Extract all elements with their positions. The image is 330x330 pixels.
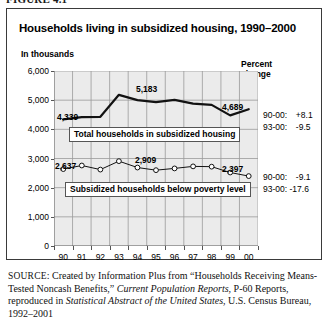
y-axis-tick-mark	[51, 129, 54, 130]
source-italic-2: Statistical Abstract of the United State…	[66, 295, 223, 306]
figure-label: FIGURE 4.1	[6, 0, 67, 5]
y-axis-unit-label: In thousands	[21, 49, 74, 59]
chart-title: Households living in subsidized housing,…	[19, 22, 296, 34]
x-axis-tick-mark	[54, 246, 55, 250]
y-axis-tick-mark	[51, 188, 54, 189]
callout-total-end: 4,689	[222, 102, 243, 112]
x-axis-tick-mark	[258, 246, 259, 250]
callout-total-start: 4,339	[57, 112, 78, 122]
y-axis-tick-label: 3,000	[7, 155, 49, 163]
series-label-total: Total households in subsidized housing	[69, 127, 240, 142]
x-axis-tick-mark	[165, 246, 166, 250]
y-axis-tick-label: 1,000	[7, 213, 49, 221]
x-axis-tick-mark	[202, 246, 203, 250]
callout-poverty-start: 2,637	[55, 161, 76, 171]
source-italic-1: Current Population Reports	[117, 283, 229, 294]
callout-total-peak: 5,183	[136, 84, 157, 94]
percent-change-poverty-row-1: 93-00: -17.6	[263, 184, 309, 194]
y-axis-tick-label: 0	[7, 242, 49, 250]
percent-change-total-period-1: 93-00:	[263, 122, 287, 132]
series-label-poverty: Subsidized households below poverty leve…	[65, 182, 251, 197]
y-axis-tick-label: 6,000	[7, 67, 49, 75]
percent-change-total-row-0: 90-00: +8.1	[263, 110, 313, 120]
percent-change-total-row-1: 93-00: -9.5	[263, 122, 311, 132]
percent-change-total-period-0: 90-00:	[263, 110, 287, 120]
source-prefix: SOURCE	[8, 271, 47, 281]
x-axis-tick-mark	[91, 246, 92, 250]
y-axis-tick-label: 4,000	[7, 125, 49, 133]
x-axis-tick-mark	[147, 246, 148, 250]
figure-box: Households living in subsidized housing,…	[6, 8, 322, 260]
figure-page: FIGURE 4.1 Households living in subsidiz…	[0, 0, 330, 330]
x-axis-tick-mark	[110, 246, 111, 250]
y-axis-tick-mark	[51, 159, 54, 160]
y-axis-tick-mark	[51, 71, 54, 72]
percent-change-poverty-row-0: 90-00: -9.1	[263, 172, 311, 182]
percent-change-total-value-0: +8.1	[296, 110, 313, 120]
y-axis-tick-mark	[51, 217, 54, 218]
y-axis-tick-label: 5,000	[7, 96, 49, 104]
x-axis-tick-label: 00	[238, 252, 260, 262]
y-axis-tick-label: 2,000	[7, 184, 49, 192]
callout-poverty-end: 2,397	[222, 164, 243, 174]
percent-change-poverty-period-1: 93-00:	[263, 184, 287, 194]
x-axis-tick-mark	[239, 246, 240, 250]
percent-change-total-value-1: -9.5	[296, 122, 311, 132]
percent-change-header-line1: Percent	[241, 59, 313, 69]
x-axis-tick-mark	[184, 246, 185, 250]
callout-poverty-peak: 2,909	[135, 155, 156, 165]
y-axis-tick-mark	[51, 100, 54, 101]
x-axis-tick-mark	[128, 246, 129, 250]
source-note: SOURCE: Created by Information Plus from…	[8, 270, 322, 320]
x-axis-tick-mark	[73, 246, 74, 250]
percent-change-poverty-value-1: -17.6	[289, 184, 308, 194]
x-axis-tick-mark	[221, 246, 222, 250]
percent-change-poverty-value-0: -9.1	[296, 172, 311, 182]
percent-change-poverty-period-0: 90-00:	[263, 172, 287, 182]
